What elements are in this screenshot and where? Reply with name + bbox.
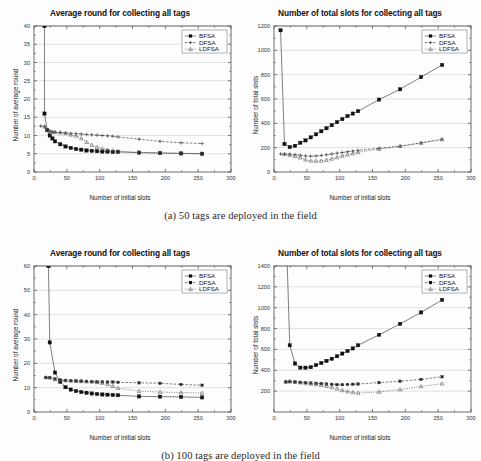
marker-BFSA xyxy=(74,389,77,392)
y-tick-label: 0 xyxy=(267,169,270,175)
plot-area: 2004006008001000120014000501001502002503… xyxy=(240,244,480,444)
marker-BFSA xyxy=(299,366,302,369)
plot-area: 0102030405060050100150200250300BFSADFSAL… xyxy=(0,244,240,444)
legend-label-LDFSA: LDFSA xyxy=(199,45,220,52)
marker-BFSA xyxy=(288,145,291,148)
marker-BFSA xyxy=(64,145,67,148)
marker-DFSA xyxy=(158,140,162,144)
marker-DFSA xyxy=(330,152,334,156)
marker-BFSA xyxy=(293,362,296,365)
marker-BFSA xyxy=(440,298,443,301)
legend: BFSADFSALDFSA xyxy=(422,270,467,293)
x-tick-label: 200 xyxy=(161,175,170,181)
x-tick-label: 0 xyxy=(32,175,35,181)
marker-DFSA xyxy=(117,381,120,384)
marker-DFSA xyxy=(319,154,323,158)
y-tick-label: 1000 xyxy=(258,47,270,53)
legend-marker-BFSA xyxy=(429,274,432,277)
marker-BFSA xyxy=(43,24,46,27)
marker-BFSA xyxy=(309,136,312,139)
marker-DFSA xyxy=(304,154,308,158)
x-tick-label: 0 xyxy=(272,415,275,421)
x-tick-label: 100 xyxy=(335,175,344,181)
marker-BFSA xyxy=(356,344,359,347)
marker-BFSA xyxy=(64,385,67,388)
marker-BFSA xyxy=(341,117,344,120)
marker-DFSA xyxy=(314,154,318,158)
y-tick-label: 800 xyxy=(261,326,270,332)
y-tick-label: 40 xyxy=(24,23,30,29)
marker-DFSA xyxy=(106,134,110,138)
marker-BFSA xyxy=(69,388,72,391)
x-tick-label: 100 xyxy=(95,415,104,421)
y-tick-label: 35 xyxy=(24,41,30,47)
marker-BFSA xyxy=(330,123,333,126)
marker-BFSA xyxy=(419,75,422,78)
marker-DFSA xyxy=(39,124,43,128)
x-tick-label: 150 xyxy=(128,415,137,421)
caption-b: (b) 100 tags are deployed in the field xyxy=(0,450,481,461)
marker-BFSA xyxy=(304,139,307,142)
marker-BFSA xyxy=(179,395,182,398)
marker-DFSA xyxy=(179,141,183,145)
marker-BFSA xyxy=(335,355,338,358)
y-axis-label: Number of average round xyxy=(2,212,9,302)
y-tick-label: 50 xyxy=(24,287,30,293)
series-group xyxy=(44,264,204,399)
legend-marker-BFSA xyxy=(189,274,192,277)
marker-BFSA xyxy=(377,333,380,336)
y-tick-label: 0 xyxy=(27,409,30,415)
x-tick-label: 50 xyxy=(304,175,310,181)
x-tick-label: 200 xyxy=(401,415,410,421)
chart-svg-a-left: 0510152025303540050100150200250300BFSADF… xyxy=(0,4,240,204)
x-tick-label: 50 xyxy=(304,415,310,421)
marker-BFSA xyxy=(69,146,72,149)
x-tick-label: 150 xyxy=(128,175,137,181)
marker-BFSA xyxy=(80,148,83,151)
series-line-LDFSA xyxy=(45,127,203,154)
caption-a: (a) 50 tags are deployed in the field xyxy=(0,210,481,221)
x-tick-label: 150 xyxy=(368,175,377,181)
series-line-BFSA xyxy=(45,26,203,154)
series-group xyxy=(39,24,204,155)
marker-BFSA xyxy=(95,149,98,152)
marker-BFSA xyxy=(335,120,338,123)
series-line-DFSA xyxy=(286,377,442,385)
y-tick-label: 1200 xyxy=(258,23,270,29)
chart-svg-a-right: 020040060080010001200050100150200250300B… xyxy=(240,4,480,204)
x-tick-label: 200 xyxy=(401,175,410,181)
y-tick-label: 15 xyxy=(24,114,30,120)
marker-BFSA xyxy=(330,357,333,360)
x-tick-label: 100 xyxy=(335,415,344,421)
marker-BFSA xyxy=(95,392,98,395)
marker-DFSA xyxy=(200,142,204,146)
marker-BFSA xyxy=(116,394,119,397)
legend: BFSADFSALDFSA xyxy=(422,30,467,53)
y-tick-label: 0 xyxy=(27,169,30,175)
marker-BFSA xyxy=(101,393,104,396)
marker-BFSA xyxy=(314,363,317,366)
y-tick-label: 30 xyxy=(24,60,30,66)
marker-DFSA xyxy=(111,134,115,138)
marker-BFSA xyxy=(90,392,93,395)
y-tick-label: 25 xyxy=(24,78,30,84)
marker-LDFSA xyxy=(90,143,94,146)
y-tick-label: 600 xyxy=(261,96,270,102)
plot-group: 2004006008001000120014000501001502002503… xyxy=(258,259,476,421)
x-tick-label: 250 xyxy=(433,415,442,421)
marker-BFSA xyxy=(346,114,349,117)
y-tick-label: 200 xyxy=(261,388,270,394)
x-tick-label: 300 xyxy=(226,415,235,421)
marker-BFSA xyxy=(283,142,286,145)
marker-BFSA xyxy=(90,149,93,152)
y-tick-label: 10 xyxy=(24,385,30,391)
legend: BFSADFSALDFSA xyxy=(182,30,227,53)
marker-BFSA xyxy=(320,361,323,364)
marker-DFSA xyxy=(138,382,141,385)
x-axis-label: Number of initial slots xyxy=(0,194,240,201)
marker-DFSA xyxy=(420,378,423,381)
x-axis-label: Number of initial slots xyxy=(240,434,480,441)
marker-DFSA xyxy=(325,153,329,157)
y-tick-label: 20 xyxy=(24,96,30,102)
